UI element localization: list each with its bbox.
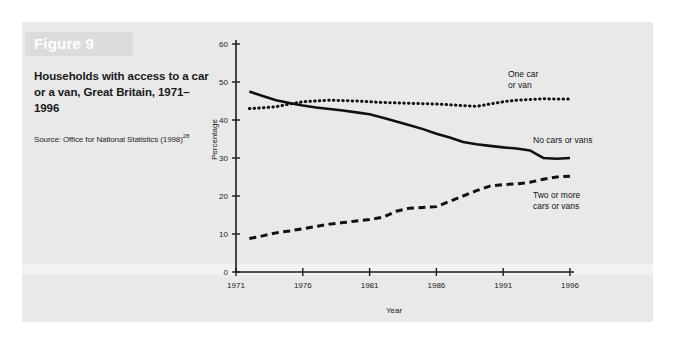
line-chart: 0102030405060197119761981198619911996 — [210, 28, 640, 318]
figure-number-banner: Figure 9 — [25, 32, 133, 56]
figure-root: Figure 9 Households with access to a car… — [0, 0, 676, 345]
figure-source-text: Source: Office for National Statistics (… — [34, 135, 183, 144]
y-axis-tick-label: 20 — [219, 192, 228, 201]
x-axis-title: Year — [386, 306, 402, 315]
series-label-no-cars-or-vans: No cars or vans — [533, 135, 593, 146]
y-axis-tick-label: 10 — [219, 230, 228, 239]
figure-source-reference: 28 — [183, 133, 189, 139]
series-line-no-cars-or-vans — [249, 92, 570, 159]
figure-title: Households with access to a car or a van… — [34, 68, 214, 116]
x-axis-tick-label: 1971 — [227, 281, 245, 290]
series-line-one-car-or-van — [249, 99, 570, 109]
chart-plot-area: 0102030405060197119761981198619911996 Pe… — [210, 28, 640, 318]
y-axis-tick-label: 0 — [224, 268, 229, 277]
x-axis-tick-label: 1976 — [294, 281, 312, 290]
x-axis-tick-label: 1996 — [561, 281, 579, 290]
y-axis-title: Percentage — [210, 119, 219, 160]
x-axis-tick-label: 1986 — [428, 281, 446, 290]
y-axis-tick-label: 30 — [219, 154, 228, 163]
y-axis-tick-label: 50 — [219, 78, 228, 87]
y-axis-tick-label: 40 — [219, 116, 228, 125]
x-axis-tick-label: 1991 — [494, 281, 512, 290]
figure-caption-block: Figure 9 Households with access to a car… — [34, 32, 214, 145]
series-line-two-or-more-cars-or-vans — [249, 176, 570, 238]
x-axis-tick-label: 1981 — [361, 281, 379, 290]
y-axis-tick-label: 60 — [219, 40, 228, 49]
figure-source: Source: Office for National Statistics (… — [34, 131, 214, 145]
series-label-one-car-or-van: One car or van — [508, 69, 538, 90]
series-label-two-or-more-cars-or-vans: Two or more cars or vans — [533, 190, 580, 211]
